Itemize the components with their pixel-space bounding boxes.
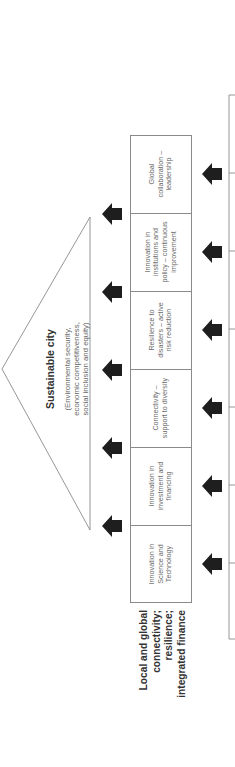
goal-subtitle-line: economic competitiveness, (72, 322, 81, 416)
diagram-graphics (0, 0, 235, 767)
block-arrow-up-icon (102, 359, 122, 381)
block-arrow-up-icon (102, 203, 122, 225)
pillar-line: leadership (165, 157, 174, 190)
pillar-line: financing (165, 472, 174, 501)
block-arrow-up-icon (202, 163, 222, 185)
pillar-text-resilience: Resilience to disasters – active risk re… (130, 291, 192, 369)
goal-text: Sustainable city (Environmental security… (37, 279, 97, 459)
pillar-line: risk reduction (165, 309, 174, 352)
foundation-label-line: resilience; (163, 610, 176, 660)
foundation-label: Local and global connectivity; resilienc… (136, 610, 190, 704)
block-arrow-up-icon (202, 397, 222, 419)
block-arrow-up-icon (202, 475, 222, 497)
pillar-text-science-technology: Innovation in Science and Technology (130, 525, 192, 603)
foundation-label-line: integrated finance (176, 610, 189, 698)
pillar-text-institutions-policy: Innovation in institutions and policy – … (130, 213, 192, 291)
block-arrow-up-icon (102, 515, 122, 537)
block-arrow-up-icon (202, 553, 222, 575)
pillar-text-global-collaboration: Global collaboration – leadership (130, 135, 192, 213)
block-arrow-up-icon (102, 281, 122, 303)
goal-subtitle-line: (Environmental security, (63, 322, 72, 416)
foundation-label-line: connectivity; (151, 610, 164, 673)
goal-title: Sustainable city (44, 329, 56, 409)
pillar-line: Technology (165, 546, 174, 582)
foundation-label-line: Local and global (138, 610, 151, 690)
block-arrow-up-icon (202, 319, 222, 341)
lower-arrow-row (202, 163, 222, 575)
foundation-bracket (229, 95, 235, 639)
goal-subtitle-line: social inclusion and equity) (81, 322, 90, 416)
upper-arrow-row (102, 203, 122, 537)
pillar-text-connectivity: Connectivity – support to diversity (130, 369, 192, 447)
block-arrow-up-icon (202, 241, 222, 263)
pillar-line: improvement (170, 231, 179, 273)
pillar-text-investment-financing: Innovation in investment and financing (130, 447, 192, 525)
block-arrow-up-icon (102, 437, 122, 459)
goal-subtitle: (Environmental security, economic compet… (63, 322, 90, 416)
pillar-line: support to diversity (161, 378, 170, 438)
